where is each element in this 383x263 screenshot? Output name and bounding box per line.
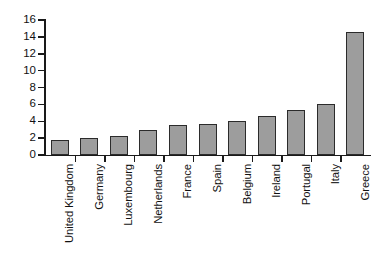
x-tick [281, 156, 283, 162]
y-tick-8 [38, 87, 44, 89]
y-tick-4 [38, 121, 44, 123]
bar [287, 110, 305, 155]
y-tick-2 [38, 137, 44, 139]
category-label-spain: Spain [212, 164, 223, 192]
category-label-italy: Italy [330, 164, 341, 184]
plot-area [45, 20, 370, 155]
bar [228, 121, 246, 155]
category-label-netherlands: Netherlands [153, 164, 164, 224]
x-tick [311, 156, 313, 162]
y-tick-10 [38, 70, 44, 72]
category-label-ireland: Ireland [271, 164, 282, 198]
y-tick-12 [38, 53, 44, 55]
bar [317, 104, 335, 155]
category-label-portugal: Portugal [301, 164, 312, 205]
bar-chart: 0246810121416 United KingdomGermanyLuxem… [0, 0, 383, 263]
category-label-belgium: Belgium [242, 164, 253, 204]
x-tick [193, 156, 195, 162]
y-tick-label-0: 0 [0, 149, 36, 161]
bar [80, 138, 98, 155]
y-tick-label-8: 8 [0, 82, 36, 94]
category-label-france: France [182, 164, 193, 199]
bar [110, 136, 128, 155]
y-tick-label-12: 12 [0, 48, 36, 60]
bar [169, 125, 187, 155]
x-tick [340, 156, 342, 162]
y-tick-label-4: 4 [0, 115, 36, 127]
category-label-luxembourg: Luxembourg [123, 164, 134, 226]
x-tick [222, 156, 224, 162]
bar [258, 116, 276, 155]
y-tick-label-2: 2 [0, 132, 36, 144]
x-tick [252, 156, 254, 162]
category-label-germany: Germany [94, 164, 105, 210]
category-label-united-kingdom: United Kingdom [64, 164, 75, 243]
y-tick-14 [38, 36, 44, 38]
bar [346, 32, 364, 155]
bar [199, 124, 217, 155]
x-tick [75, 156, 77, 162]
category-label-greece: Greece [360, 164, 371, 200]
x-tick [134, 156, 136, 162]
x-tick [104, 156, 106, 162]
y-tick-label-14: 14 [0, 31, 36, 43]
y-tick-6 [38, 104, 44, 106]
y-tick-label-10: 10 [0, 65, 36, 77]
y-tick-label-16: 16 [0, 14, 36, 26]
y-tick-0 [38, 154, 44, 156]
y-tick-label-6: 6 [0, 98, 36, 110]
y-tick-16 [38, 19, 44, 21]
bar [51, 140, 69, 155]
bar [139, 130, 157, 155]
x-tick [163, 156, 165, 162]
